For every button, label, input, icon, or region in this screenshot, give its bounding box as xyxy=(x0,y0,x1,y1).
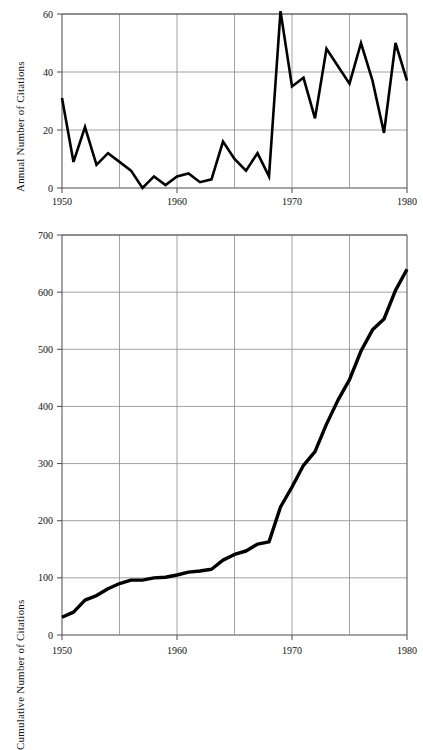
annual-citations-chart: Annual Number of Citations 0204060195019… xyxy=(0,0,423,220)
cumulative-chart-svg: 01002003004005006007001950196019701980 xyxy=(0,220,423,678)
x-tick-label: 1960 xyxy=(167,196,187,207)
y-tick-label: 200 xyxy=(38,515,53,526)
y-tick-label: 700 xyxy=(38,230,53,241)
y-tick-label: 600 xyxy=(38,287,53,298)
x-tick-label: 1980 xyxy=(397,645,417,656)
y-tick-label: 0 xyxy=(48,183,53,194)
y-tick-label: 100 xyxy=(38,572,53,583)
x-tick-label: 1950 xyxy=(52,645,72,656)
x-tick-label: 1950 xyxy=(52,196,72,207)
cumulative-citations-chart: Cumulative Number of Citations 010020030… xyxy=(0,220,423,678)
y-tick-label: 500 xyxy=(38,344,53,355)
y-tick-label: 400 xyxy=(38,401,53,412)
y-tick-label: 40 xyxy=(43,67,53,78)
annual-chart-svg: 02040601950196019701980 xyxy=(0,0,423,220)
x-tick-label: 1970 xyxy=(282,196,302,207)
x-tick-label: 1960 xyxy=(167,645,187,656)
x-tick-label: 1980 xyxy=(397,196,417,207)
y-tick-label: 20 xyxy=(43,125,53,136)
y-tick-label: 300 xyxy=(38,458,53,469)
annual-y-axis-title: Annual Number of Citations xyxy=(14,12,26,192)
y-tick-label: 60 xyxy=(43,9,53,20)
cumulative-y-axis-title: Cumulative Number of Citations xyxy=(14,550,26,750)
x-tick-label: 1970 xyxy=(282,645,302,656)
y-tick-label: 0 xyxy=(48,630,53,641)
